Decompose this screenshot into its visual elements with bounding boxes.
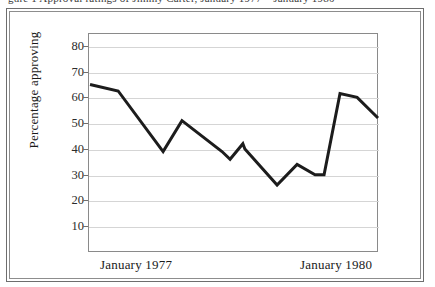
gridline <box>89 150 379 151</box>
y-axis-tick-labels: 1020304050607080 <box>44 33 84 252</box>
gridline <box>89 73 379 74</box>
gridline <box>89 227 379 228</box>
y-axis-title: Percentage approving <box>26 10 42 170</box>
plot-area <box>88 33 378 252</box>
y-axis-tick-mark <box>83 200 88 201</box>
y-axis-tick-label: 60 <box>48 91 84 104</box>
y-axis-tick-label: 80 <box>48 40 84 53</box>
line-chart-figure: 1020304050607080 Percentage approving Ja… <box>0 0 435 287</box>
y-axis-tick-label: 70 <box>48 66 84 79</box>
y-axis-tick-mark <box>83 46 88 47</box>
gridline <box>89 98 379 99</box>
x-axis-tick-label-start: January 1977 <box>100 258 172 271</box>
y-axis-tick-mark <box>83 226 88 227</box>
y-axis-tick-label: 10 <box>48 220 84 233</box>
x-axis-tick-label-end: January 1980 <box>300 258 372 271</box>
y-axis-tick-mark <box>83 175 88 176</box>
gridline <box>89 124 379 125</box>
y-axis-tick-label: 20 <box>48 194 84 207</box>
y-axis-tick-label: 50 <box>48 117 84 130</box>
gridline <box>89 47 379 48</box>
y-axis-tick-mark <box>83 97 88 98</box>
gridline <box>89 201 379 202</box>
y-axis-tick-label: 40 <box>48 143 84 156</box>
y-axis-tick-mark <box>83 149 88 150</box>
y-axis-tick-mark <box>83 123 88 124</box>
y-axis-tick-label: 30 <box>48 169 84 182</box>
y-axis-tick-mark <box>83 72 88 73</box>
gridline <box>89 176 379 177</box>
